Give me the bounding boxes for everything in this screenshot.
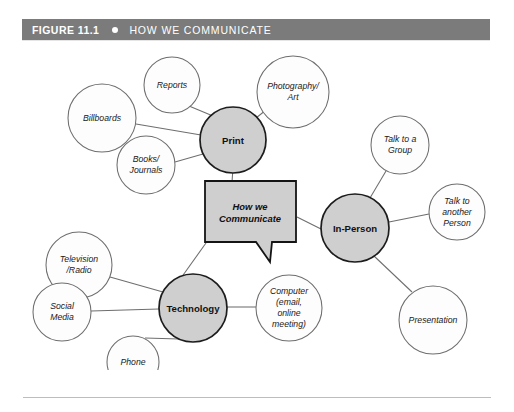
edge-inperson-talk-person — [389, 214, 429, 222]
phone-label: Phone — [120, 357, 145, 367]
photography-art-label-line-2: Art — [286, 92, 299, 102]
computer-label-line-1: Computer — [270, 286, 309, 296]
television-radio-label-line-2: /Radio — [65, 265, 91, 275]
edge-inperson-talk-group — [370, 171, 386, 198]
edge-print-books-journals — [175, 154, 203, 162]
edge-technology-phone — [145, 338, 179, 339]
edge-center-to-technology — [181, 243, 206, 278]
footer-divider — [23, 397, 491, 398]
node-in-person[interactable]: In-Person — [321, 194, 389, 262]
talk-to-a-group-label-line-1: Talk to a — [384, 134, 417, 144]
talk-to-another-person-label-line-1: Talk to — [444, 196, 469, 206]
node-print[interactable]: Print — [200, 107, 266, 173]
edge-center-to-in-person — [297, 217, 323, 230]
print-label: Print — [222, 135, 245, 146]
edge-technology-television-radio — [110, 277, 163, 292]
presentation-label: Presentation — [409, 315, 458, 325]
books-journals-label-line-2: Journals — [129, 165, 163, 175]
mind-map-diagram: Billboards Reports Photography/ Art Book… — [0, 40, 514, 370]
edge-inperson-presentation — [374, 256, 412, 292]
talk-to-a-group-label-line-2: Group — [388, 145, 412, 155]
talk-to-another-person-label-line-2: another — [442, 207, 473, 217]
node-center-callout[interactable]: How we Communicate — [205, 181, 296, 262]
in-person-label: In-Person — [333, 223, 377, 234]
filled-circle-icon — [112, 27, 118, 33]
node-talk-to-a-group[interactable]: Talk to a Group — [371, 116, 429, 174]
figure-title: HOW WE COMMUNICATE — [129, 24, 271, 36]
computer-label-line-2: (email, — [276, 297, 302, 307]
figure-container: FIGURE 11.1 HOW WE COMMUNICATE — [0, 0, 514, 412]
node-reports[interactable]: Reports — [144, 57, 200, 113]
technology-label: Technology — [166, 303, 220, 314]
computer-label-line-3: online — [277, 308, 300, 318]
computer-label-line-4: meeting) — [272, 319, 306, 329]
social-media-label-line-2: Media — [50, 312, 74, 322]
books-journals-label-line-1: Books/ — [133, 154, 161, 164]
edge-print-billboards — [136, 124, 201, 135]
photography-art-label-line-1: Photography/ — [267, 81, 320, 91]
figure-header-bar: FIGURE 11.1 HOW WE COMMUNICATE — [22, 19, 490, 40]
television-radio-label-line-1: Television — [60, 254, 98, 264]
node-computer[interactable]: Computer (email, online meeting) — [256, 275, 322, 341]
figure-number-label: FIGURE 11.1 — [32, 24, 99, 36]
edge-technology-social-media — [91, 309, 159, 311]
node-talk-to-another-person[interactable]: Talk to another Person — [429, 184, 485, 240]
center-label-line-2: Communicate — [219, 213, 281, 224]
node-billboards[interactable]: Billboards — [68, 84, 136, 152]
edge-print-reports — [189, 106, 213, 116]
billboards-label: Billboards — [83, 113, 122, 123]
node-technology[interactable]: Technology — [159, 274, 227, 342]
social-media-label-line-1: Social — [50, 301, 75, 311]
node-phone[interactable]: Phone — [107, 336, 159, 370]
center-label-line-1: How we — [233, 201, 268, 212]
talk-to-another-person-label-line-3: Person — [443, 218, 471, 228]
node-photography-art[interactable]: Photography/ Art — [257, 56, 329, 128]
node-presentation[interactable]: Presentation — [399, 286, 467, 354]
node-books-journals[interactable]: Books/ Journals — [117, 136, 175, 194]
node-social-media[interactable]: Social Media — [33, 283, 91, 341]
reports-label: Reports — [157, 80, 188, 90]
